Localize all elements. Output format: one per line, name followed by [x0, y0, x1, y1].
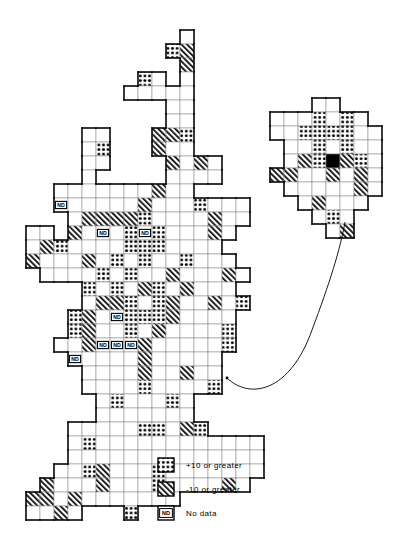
grid-cell-empty: [40, 254, 54, 268]
legend-item-label: No data: [186, 509, 217, 518]
grid-cell-empty: [180, 72, 194, 86]
crosshatch-swatch: [158, 458, 174, 472]
grid-cell-empty: [124, 408, 138, 422]
grid-cell-empty: [96, 198, 110, 212]
grid-cell-empty: [110, 478, 124, 492]
grid-cell-empty: [194, 296, 208, 310]
grid-cell-empty: [110, 352, 124, 366]
grid-cell-diagonal: [180, 282, 194, 296]
grid-cell-empty: [166, 100, 180, 114]
grid-cell-empty: [68, 506, 82, 520]
grid-cell-empty: [82, 366, 96, 380]
grid-cell-empty: [40, 268, 54, 282]
grid-cell-diagonal: [208, 212, 222, 226]
grid-cell-diagonal: [152, 128, 166, 142]
grid-cell-empty: [208, 310, 222, 324]
grid-cell-crosshatch: [166, 394, 180, 408]
grid-cell-empty: [110, 366, 124, 380]
grid-cell-crosshatch: [110, 282, 124, 296]
no-data-swatch-label: ND: [162, 510, 170, 516]
grid-cell-empty: [180, 114, 194, 128]
grid-cell-diagonal: [138, 338, 152, 352]
grid-cell-empty: [194, 254, 208, 268]
grid-cell-empty: [68, 184, 82, 198]
grid-cell-empty: [96, 408, 110, 422]
grid-cell-crosshatch: [82, 282, 96, 296]
grid-cell-empty: [166, 408, 180, 422]
grid-cell-diagonal: [110, 212, 124, 226]
grid-cell-empty: [82, 226, 96, 240]
grid-cell-empty: [96, 310, 110, 324]
grid-cell-empty: [124, 254, 138, 268]
grid-cell-empty: [96, 422, 110, 436]
grid-cell-empty: [270, 112, 284, 126]
grid-cell-empty: [180, 240, 194, 254]
grid-cell-empty: [82, 156, 96, 170]
grid-cell-empty: [96, 492, 110, 506]
grid-cell-crosshatch: [82, 464, 96, 478]
grid-cell-crosshatch: [194, 422, 208, 436]
grid-cell-empty: [194, 436, 208, 450]
grid-cell-empty: [40, 226, 54, 240]
grid-cell-empty: [222, 282, 236, 296]
grid-cell-empty: [138, 394, 152, 408]
grid-cell-empty: [138, 478, 152, 492]
grid-cell-empty: [26, 226, 40, 240]
grid-cell-empty: [96, 436, 110, 450]
grid-cell-crosshatch: [340, 126, 354, 140]
grid-cell-empty: [368, 140, 382, 154]
grid-cell-empty: [166, 198, 180, 212]
grid-cell-empty: [236, 268, 250, 282]
grid-cell-empty: [110, 492, 124, 506]
grid-cell-empty: [208, 366, 222, 380]
grid-cell-empty: [82, 478, 96, 492]
grid-cell-empty: [68, 450, 82, 464]
grid-cell-empty: [368, 182, 382, 196]
grid-cell-empty: [180, 184, 194, 198]
grid-cell-empty: [124, 86, 138, 100]
grid-cell-empty: [368, 154, 382, 168]
grid-cell-crosshatch: [138, 254, 152, 268]
grid-cell-empty: [166, 184, 180, 198]
grid-cell-empty: [152, 212, 166, 226]
grid-cell-empty: [54, 464, 68, 478]
grid-cell-diagonal: [110, 296, 124, 310]
grid-cell-empty: [166, 366, 180, 380]
grid-cell-empty: [54, 254, 68, 268]
grid-cell-empty: [298, 112, 312, 126]
legend-item-label: -10 or greater: [186, 485, 240, 494]
grid-cell-diagonal: [54, 506, 68, 520]
grid-cell-empty: [152, 198, 166, 212]
grid-cell-crosshatch: [194, 198, 208, 212]
grid-cell-empty: [124, 464, 138, 478]
no-data-label: ND: [127, 342, 135, 348]
grid-cell-empty: [194, 324, 208, 338]
grid-cell-empty: [166, 282, 180, 296]
grid-cell-empty: [82, 240, 96, 254]
grid-cell-crosshatch: [124, 296, 138, 310]
grid-cell-empty: [250, 450, 264, 464]
grid-cell-empty: [54, 338, 68, 352]
grid-cell-empty: [298, 196, 312, 210]
grid-cell-diagonal: [166, 310, 180, 324]
grid-cell-empty: [124, 450, 138, 464]
grid-cell-empty: [82, 380, 96, 394]
grid-cell-empty: [166, 436, 180, 450]
no-data-label: ND: [71, 356, 79, 362]
grid-cell-crosshatch: [152, 422, 166, 436]
grid-cell-empty: [180, 436, 194, 450]
grid-cell-crosshatch: [124, 310, 138, 324]
grid-cell-empty: [96, 366, 110, 380]
grid-cell-empty: [110, 436, 124, 450]
grid-cell-diagonal: [82, 212, 96, 226]
grid-cell-diagonal: [68, 492, 82, 506]
grid-cell-empty: [284, 112, 298, 126]
grid-cell-crosshatch: [124, 226, 138, 240]
grid-cell-empty: [180, 198, 194, 212]
grid-cell-empty: [180, 310, 194, 324]
grid-cell-empty: [354, 112, 368, 126]
grid-cell-diagonal: [40, 240, 54, 254]
grid-cell-empty: [194, 170, 208, 184]
grid-cell-diagonal: [82, 338, 96, 352]
grid-cell-empty: [152, 408, 166, 422]
